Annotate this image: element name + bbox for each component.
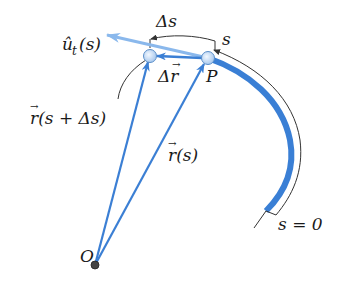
s-arc-label: s [222,29,231,49]
delta-r-label: Δr → [157,59,181,86]
path-continuation-arc [118,60,146,99]
point-p-label: P [205,66,218,86]
path-extension-line [254,211,266,228]
r-s-plus-delta-label: r(s + Δs) → [30,101,106,128]
r-s-label: r(s) → [168,138,198,165]
delta-s-dimension-arc [151,36,215,41]
delta-s-label: Δs [155,11,177,31]
r-s-plus-delta-text: r(s + Δs) [30,108,106,128]
unit-tangent-subscript: t [72,44,77,58]
path-curve [208,58,291,211]
delta-r-vector-arrow: → [172,59,181,70]
arc-length-diagram: û t (s) Δs s Δr → P r(s + Δs) → r(s) → s… [0,0,351,283]
unit-tangent-vector [107,35,208,58]
r-s-plus-delta-vector [95,62,148,265]
unit-tangent-argument: (s) [79,34,101,54]
point-s-plus-delta [144,50,157,63]
r-s-plus-delta-vector-arrow: → [30,101,39,112]
origin-label: O [80,246,94,266]
unit-tangent-label: û t (s) [62,34,101,58]
s-zero-tick [266,211,276,215]
r-s-vector-arrow: → [168,138,177,149]
point-p [202,52,215,65]
s-zero-label: s = 0 [278,214,323,234]
